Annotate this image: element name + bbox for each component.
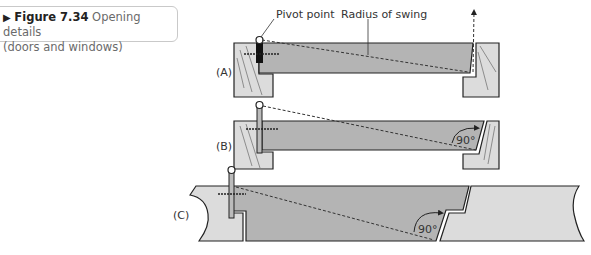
panel-b-pivot-icon — [256, 102, 263, 109]
panel-b-label: (B) — [216, 140, 232, 153]
radius-of-swing-label: Radius of swing — [341, 8, 427, 21]
panel-c: 90° (C) — [173, 167, 584, 242]
panel-a-pivot-bolt — [256, 43, 263, 63]
panel-a-door-leaf — [259, 43, 473, 73]
panel-b-door-leaf — [262, 121, 484, 150]
pivot-point-leader — [261, 19, 274, 37]
panel-b: 90° (B) — [216, 102, 499, 170]
panel-c-pivot-icon — [228, 167, 235, 174]
pivot-point-label: Pivot point — [276, 8, 335, 21]
panel-c-label: (C) — [173, 209, 189, 222]
opening-details-diagram: Pivot point Radius of swing (A) 90° (B) … — [0, 0, 591, 255]
panel-a-label: (A) — [216, 66, 232, 79]
panel-a: Pivot point Radius of swing (A) — [216, 8, 499, 97]
panel-a-pivot-icon — [256, 37, 263, 44]
panel-c-angle-label: 90° — [418, 223, 438, 236]
panel-b-angle-label: 90° — [456, 134, 476, 147]
panel-c-pivot-bolt — [229, 172, 234, 218]
panel-b-pivot-bolt — [257, 107, 262, 153]
panel-a-swing-arrow-icon — [473, 12, 474, 72]
